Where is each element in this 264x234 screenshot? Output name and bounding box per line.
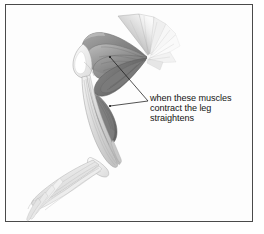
leader-line-lower (109, 101, 148, 107)
foot-toes (27, 160, 102, 221)
muscle-annotation-label: when these muscles contract the leg stra… (150, 93, 250, 124)
figure-root: when these muscles contract the leg stra… (0, 0, 264, 234)
